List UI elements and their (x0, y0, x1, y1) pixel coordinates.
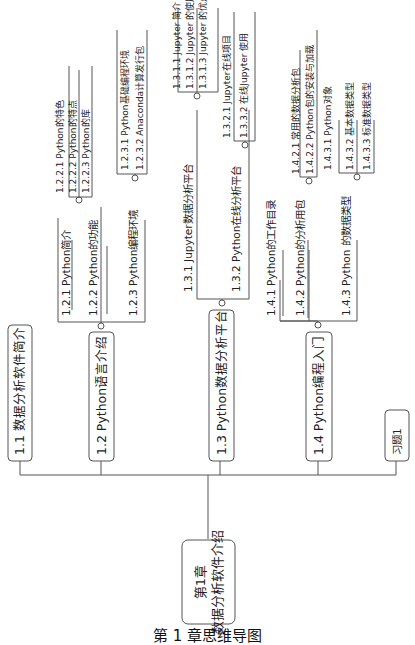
node-1-4-3-1[interactable]: 1.4.3.1 Python对象 (322, 86, 333, 170)
branch-1-4-collapse-toggle[interactable] (315, 322, 321, 328)
node-1-2-2-3[interactable]: 1.2.2.3 Python的库 (80, 109, 91, 193)
root-node[interactable]: 第1章 数据分析软件介绍 (182, 530, 235, 634)
node-1-3-1[interactable]: 1.3.1 Jupyter数据分析平台 (182, 164, 194, 292)
root-title-line1: 第1章 (193, 565, 208, 599)
node-1-3-2-collapse-toggle[interactable] (242, 142, 248, 148)
node-1-4-3-collapse-toggle[interactable] (354, 174, 360, 180)
node-1-2-2-1[interactable]: 1.2.2.1 Python的特色 (54, 100, 65, 193)
svg-text:1.2 Python语言介绍: 1.2 Python语言介绍 (94, 336, 109, 455)
node-1-4-3-3[interactable]: 1.4.3.3 标准数据类型 (361, 82, 372, 170)
node-1-3-1-3[interactable]: 1.3.1.3 Jupyter 的优点 (197, 0, 208, 89)
branch-1-2[interactable]: 1.2 Python语言介绍 (89, 332, 114, 461)
node-1-4-2-2[interactable]: 1.4.2.2 Python包的安装与加载 (304, 45, 315, 174)
node-1-3-1-collapse-toggle[interactable] (194, 93, 200, 99)
node-1-4-2-collapse-toggle[interactable] (306, 178, 312, 184)
node-1-2-2-2[interactable]: 1.2.2.2 Python的特点 (67, 100, 78, 193)
branch-1-1[interactable]: 1.1 数据分析软件简介 (8, 325, 32, 461)
node-1-2-3[interactable]: 1.2.3 Python编程环境 (127, 210, 139, 316)
node-1-3-1-2[interactable]: 1.3.1.2 Jupyter 的使用 (184, 0, 195, 89)
node-1-2-3-1[interactable]: 1.2.3.1 Python基础编程环境 (119, 50, 130, 170)
svg-text:1.4 Python编程入门: 1.4 Python编程入门 (311, 336, 326, 455)
node-1-3-2-2[interactable]: 1.3.3.2 在线Jupyter 使用 (238, 33, 249, 138)
figure-caption: 第 1 章思维导图 (0, 624, 415, 645)
branch-exercise-1[interactable]: 习题1 (385, 410, 409, 461)
svg-text:1.3 Python数据分析平台: 1.3 Python数据分析平台 (214, 310, 229, 455)
root-title-line2: 数据分析软件介绍 (210, 530, 225, 634)
node-1-3-2-1[interactable]: 1.3.2.1 Jupyter在线项目 (221, 35, 232, 138)
node-1-3-1-1[interactable]: 1.3.1.1 Jupyter 简介 (171, 2, 182, 89)
node-1-2-3-2[interactable]: 1.2.3.2 Anaconda计算发行包 (134, 46, 145, 170)
node-1-4-3-2[interactable]: 1.4.3.2 基本数据类型 (344, 82, 355, 170)
node-1-4-1[interactable]: 1.4.1 Python的工作目录 (265, 200, 277, 316)
branch-1-4[interactable]: 1.4 Python编程入门 (306, 332, 332, 461)
node-1-4-2-1[interactable]: 1.4.2.1 常用的数据分析包 (290, 68, 301, 174)
node-1-4-2[interactable]: 1.4.2 Python的分析用包 (294, 199, 306, 316)
branch-1-2-collapse-toggle[interactable] (98, 323, 104, 329)
node-1-2-1[interactable]: 1.2.1 Python简介 (60, 229, 72, 316)
svg-text:1.1 数据分析软件简介: 1.1 数据分析软件简介 (12, 327, 27, 455)
node-1-3-2[interactable]: 1.3.2 Python在线分析平台 (230, 166, 242, 292)
branch-1-3-collapse-toggle[interactable] (219, 300, 225, 306)
node-1-2-3-collapse-toggle[interactable] (132, 175, 138, 181)
branch-1-3[interactable]: 1.3 Python数据分析平台 (209, 310, 234, 461)
node-1-2-2[interactable]: 1.2.2 Python的功能 (87, 219, 99, 316)
trunk-connectors (20, 461, 396, 539)
svg-text:习题1: 习题1 (391, 428, 403, 455)
node-1-4-3[interactable]: 1.4.3 Python 的数据类型 (340, 196, 352, 316)
